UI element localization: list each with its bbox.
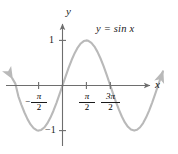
x-tick-label-pi-over-2: π 2 (79, 92, 95, 113)
minus-sign: − (25, 96, 30, 106)
x-tick-label-3pi-over-2: 3π 2 (101, 92, 120, 113)
sine-graph-figure: y x y = sin x 1 −1 − π 2 π 2 3π 2 (0, 0, 178, 154)
denominator: 2 (79, 103, 95, 112)
numerator: π (79, 92, 95, 101)
graph-canvas (0, 0, 178, 154)
x-axis-label: x (155, 79, 160, 90)
denominator: 2 (101, 103, 120, 112)
denominator: 2 (31, 103, 47, 112)
x-tick-label-neg-pi-over-2: − π 2 (31, 92, 47, 113)
numerator: π (31, 92, 47, 101)
y-tick-label-neg1: −1 (45, 125, 56, 135)
y-tick-label-1: 1 (49, 35, 54, 45)
equation-label: y = sin x (96, 24, 134, 35)
numerator: 3π (101, 92, 120, 101)
y-axis-label: y (66, 6, 71, 17)
